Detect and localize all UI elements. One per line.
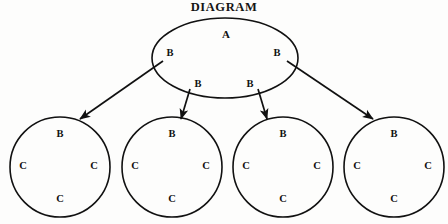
arrow-root-to-leaf-4 <box>287 61 373 119</box>
leaf-2-label-c-3: C <box>168 194 176 205</box>
leaf-4-label-c-1: C <box>353 161 361 172</box>
arrow-root-to-leaf-2 <box>181 89 190 119</box>
leaf-3-label-c-3: C <box>279 194 287 205</box>
leaf-2-label-b: B <box>168 129 175 140</box>
leaf-3-label-c-2: C <box>313 161 321 172</box>
leaf-3-label-c-1: C <box>242 161 250 172</box>
root-label-b-4: B <box>246 79 253 90</box>
leaf-1-label-c-3: C <box>56 194 64 205</box>
leaf-1-label-b: B <box>56 129 63 140</box>
root-label-b-3: B <box>194 79 201 90</box>
root-label-a: A <box>222 29 230 40</box>
arrow-root-to-leaf-3 <box>258 89 267 119</box>
leaf-4-label-c-3: C <box>390 194 398 205</box>
arrow-root-to-leaf-1 <box>80 61 163 119</box>
leaf-2-label-c-2: C <box>202 161 210 172</box>
leaf-3-label-b: B <box>279 129 286 140</box>
root-label-b-2: B <box>273 48 280 59</box>
leaf-4-label-c-2: C <box>424 161 432 172</box>
leaf-1-label-c-1: C <box>19 161 27 172</box>
leaf-2-label-c-1: C <box>131 161 139 172</box>
leaf-1-label-c-2: C <box>90 161 98 172</box>
root-label-b-1: B <box>166 48 173 59</box>
leaf-4-label-b: B <box>390 129 397 140</box>
diagram-canvas: DIAGRAM A B B B B B C C C B C C C B C C <box>0 0 448 224</box>
